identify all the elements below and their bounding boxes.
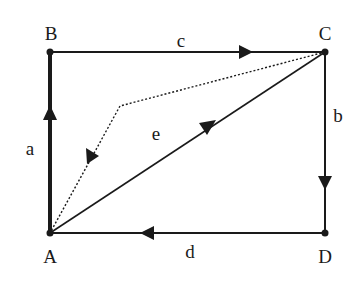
label-edge-a: a [26,139,34,158]
arrow-a-icon [43,105,57,120]
point-d [322,230,329,237]
arrow-b-icon [318,176,332,190]
label-point-d: D [318,247,332,266]
label-point-c: C [319,24,332,43]
label-edge-b: b [333,106,343,125]
label-point-b: B [45,24,58,43]
point-b [47,49,54,56]
label-edge-d: d [185,242,195,261]
label-edge-e: e [152,124,160,143]
arrow-c-icon [239,45,253,59]
point-c [322,49,329,56]
point-a [47,230,54,237]
edge-e [50,52,325,233]
label-edge-c: c [177,31,185,50]
arrow-dotted-icon [86,148,99,164]
arrow-d-icon [140,226,154,240]
label-point-a: A [43,247,57,266]
